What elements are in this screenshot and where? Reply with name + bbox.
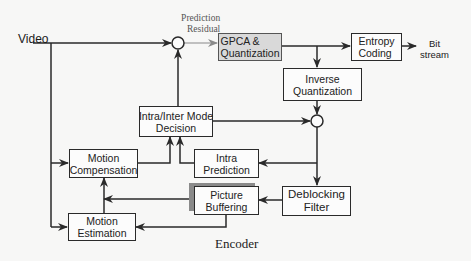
mode-decision-block: Intra/Inter ModeDecision bbox=[139, 106, 213, 137]
video-input-label: Video bbox=[18, 32, 48, 46]
gpca-quantization-block: GPCA &Quantization bbox=[218, 33, 282, 61]
entropy-coding-block: EntropyCoding bbox=[351, 33, 402, 61]
encoder-caption: Encoder bbox=[215, 236, 258, 252]
sum-junction-reconstruct bbox=[311, 115, 323, 127]
inverse-quantization-block: InverseQuantization bbox=[283, 68, 362, 101]
sum-junction-residual bbox=[172, 37, 184, 49]
intra-prediction-block: IntraPrediction bbox=[194, 149, 259, 178]
encoder-diagram: Video Prediction Residual GPCA &Quantiza… bbox=[0, 0, 471, 261]
motion-estimation-block: MotionEstimation bbox=[68, 213, 136, 241]
bitstream-output-label: Bit stream bbox=[420, 38, 449, 60]
picture-buffering-block: PictureBuffering bbox=[194, 186, 259, 215]
deblocking-filter-block: DeblockingFilter bbox=[282, 186, 351, 216]
motion-compensation-block: MotionCompensation bbox=[69, 149, 138, 178]
prediction-residual-label: Prediction Residual bbox=[181, 13, 220, 35]
